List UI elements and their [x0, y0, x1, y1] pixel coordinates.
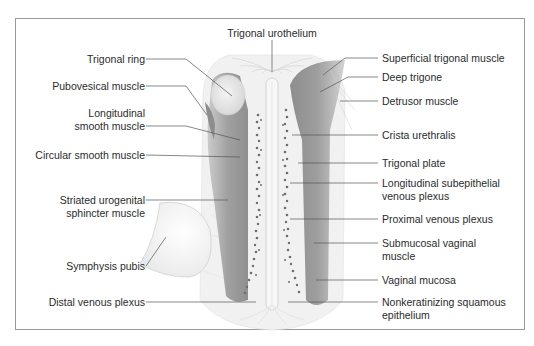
label-striated-urogenital-line2: sphincter muscle [20, 207, 145, 220]
label-submucosal-vaginal-line1: Submucosal vaginal [382, 237, 476, 250]
label-proximal-venous-plexus: Proximal venous plexus [382, 213, 493, 226]
label-crista-urethralis: Crista urethralis [382, 129, 456, 142]
label-superficial-trigonal-muscle: Superficial trigonal muscle [382, 52, 505, 65]
label-vaginal-mucosa: Vaginal mucosa [382, 274, 456, 287]
label-submucosal-vaginal-line2: muscle [382, 250, 415, 263]
label-trigonal-ring: Trigonal ring [20, 53, 145, 66]
label-nonkeratinizing-line1: Nonkeratinizing squamous [382, 296, 506, 309]
label-longitudinal-smooth-muscle-line2: smooth muscle [20, 120, 145, 133]
label-deep-trigone: Deep trigone [382, 71, 442, 84]
label-striated-urogenital-line1: Striated urogenital [20, 194, 145, 207]
label-circular-smooth-muscle: Circular smooth muscle [20, 149, 145, 162]
label-longitudinal-smooth-muscle-line1: Longitudinal [20, 107, 145, 120]
label-trigonal-urothelium: Trigonal urothelium [222, 27, 322, 40]
label-nonkeratinizing-line2: epithelium [382, 309, 430, 322]
symphysis-pubis [140, 202, 211, 277]
label-distal-venous-plexus: Distal venous plexus [20, 296, 145, 309]
trigonal-ring [211, 75, 245, 115]
label-symphysis-pubis: Symphysis pubis [20, 260, 145, 273]
label-trigonal-plate: Trigonal plate [382, 157, 445, 170]
label-longitudinal-subepithelial-line1: Longitudinal subepithelial [382, 177, 500, 190]
label-pubovesical-muscle: Pubovesical muscle [20, 80, 145, 93]
label-longitudinal-subepithelial-line2: venous plexus [382, 190, 449, 203]
label-detrusor-muscle: Detrusor muscle [382, 95, 458, 108]
